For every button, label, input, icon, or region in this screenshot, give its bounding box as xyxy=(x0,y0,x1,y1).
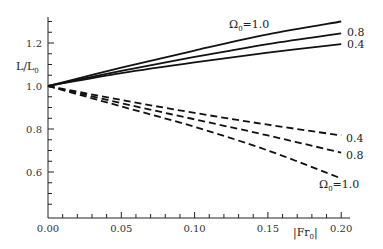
series-line-3 xyxy=(48,86,341,135)
chart: 0.60.81.01.20.000.050.100.150.20 L/L0 |F… xyxy=(0,0,383,249)
y-tick-label: 0.6 xyxy=(26,167,42,178)
x-tick-label: 0.10 xyxy=(183,223,205,234)
x-tick-label: 0.00 xyxy=(37,223,59,234)
annotation-solid-omega-1-0: Ω0=1.0 xyxy=(229,18,269,33)
series-lines xyxy=(48,22,341,179)
x-tick-label: 0.15 xyxy=(257,223,279,234)
x-tick-label: 0.20 xyxy=(330,223,352,234)
y-tick-label: 0.8 xyxy=(26,124,42,135)
series-line-4 xyxy=(48,86,341,153)
series-line-5 xyxy=(48,86,341,178)
y-tick-label: 1.2 xyxy=(26,38,42,49)
y-tick-label: 1.0 xyxy=(26,81,42,92)
x-tick-label: 0.05 xyxy=(110,223,132,234)
annotation-dashed-0-8: 0.8 xyxy=(346,149,364,162)
annotation-solid-0-4: 0.4 xyxy=(347,38,365,51)
y-axis-label: L/L0 xyxy=(16,60,39,75)
annotation-dashed-0-4: 0.4 xyxy=(346,132,364,145)
annotation-dashed-omega-1-0: Ω0=1.0 xyxy=(319,178,359,193)
x-axis-label: |Fr0| xyxy=(293,226,318,241)
